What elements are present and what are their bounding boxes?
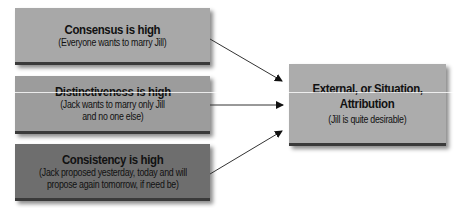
scan-line bbox=[0, 92, 459, 93]
connector-arrows bbox=[0, 0, 459, 208]
arrow-consistency bbox=[210, 131, 282, 174]
arrow-consensus bbox=[210, 39, 282, 81]
